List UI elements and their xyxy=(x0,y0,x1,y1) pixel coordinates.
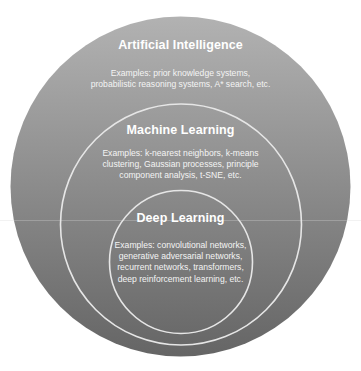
ml-description-line: component analysis, t-SNE, etc. xyxy=(0,170,361,181)
ml-description: Examples: k-nearest neighbors, k-means c… xyxy=(0,148,361,182)
ml-description-line: Examples: k-nearest neighbors, k-means xyxy=(0,148,361,159)
dl-description-line: generative adversarial networks, xyxy=(0,251,361,262)
ml-title: Machine Learning xyxy=(0,123,361,137)
ai-description: Examples: prior knowledge systems, proba… xyxy=(0,68,361,90)
dl-title: Deep Learning xyxy=(0,211,361,225)
nested-circles-diagram xyxy=(0,0,361,371)
dl-description: Examples: convolutional networks, genera… xyxy=(0,240,361,285)
ai-description-line: Examples: prior knowledge systems, xyxy=(0,68,361,79)
dl-description-line: deep reinforcement learning, etc. xyxy=(0,274,361,285)
ai-description-line: probabilistic reasoning systems, A* sear… xyxy=(0,79,361,90)
dl-description-line: Examples: convolutional networks, xyxy=(0,240,361,251)
ml-description-line: clustering, Gaussian processes, principl… xyxy=(0,159,361,170)
dl-description-line: recurrent networks, transformers, xyxy=(0,262,361,273)
ai-title: Artificial Intelligence xyxy=(0,38,361,52)
